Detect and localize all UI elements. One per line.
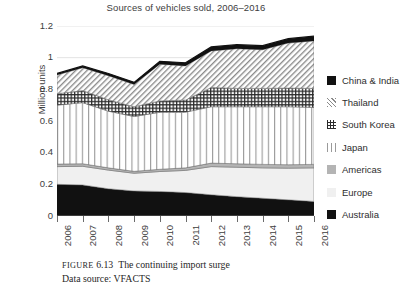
x-tick-mark	[108, 216, 109, 222]
legend-item-thailand[interactable]: Thailand	[327, 91, 419, 113]
light-gray-swatch	[327, 188, 336, 197]
solid-black-swatch	[327, 76, 336, 85]
gray-swatch	[327, 165, 336, 174]
x-tick-label: 2006	[62, 225, 73, 246]
x-tick-mark	[186, 216, 187, 222]
x-tick-mark	[211, 216, 212, 222]
x-tick-mark	[288, 216, 289, 222]
x-tick-label: 2010	[164, 225, 175, 246]
legend-label: Japan	[342, 142, 368, 153]
y-axis-ticks: 00.20.40.60.811.2	[0, 0, 53, 301]
legend-label: China & India	[342, 75, 399, 86]
x-tick-mark	[160, 216, 161, 222]
caption-title: The continuing import surge	[118, 259, 230, 270]
x-tick-label: 2015	[293, 225, 304, 246]
y-tick-label: 0.8	[40, 83, 53, 94]
x-tick-label: 2016	[319, 225, 330, 246]
legend-label: Australia	[342, 209, 379, 220]
x-tick-label: 2013	[241, 225, 252, 246]
area-band	[57, 103, 314, 172]
figure-caption: FIGURE 6.13 The continuing import surge …	[62, 258, 362, 285]
y-tick-label: 0	[48, 210, 53, 221]
x-tick-mark	[134, 216, 135, 222]
legend-item-americas[interactable]: Americas	[327, 159, 419, 181]
caption-source: Data source: VFACTS	[62, 272, 362, 285]
y-tick-label: 0.4	[40, 146, 53, 157]
x-tick-label: 2011	[190, 225, 201, 245]
caption-figure-label: FIGURE	[62, 261, 94, 270]
chart-legend: China & IndiaThailandSouth KoreaJapanAme…	[327, 69, 419, 226]
legend-item-australia[interactable]: Australia	[327, 203, 419, 225]
legend-label: Thailand	[342, 97, 378, 108]
legend-label: South Korea	[342, 119, 395, 130]
chart-title: Sources of vehicles sold, 2006–2016	[57, 2, 315, 13]
x-tick-label: 2007	[87, 225, 98, 246]
x-tick-mark	[237, 216, 238, 222]
checkerboard-swatch	[327, 120, 336, 129]
caption-figure-number: 6.13	[96, 259, 113, 270]
x-tick-label: 2012	[216, 225, 227, 246]
x-tick-mark	[83, 216, 84, 222]
x-tick-mark	[314, 216, 315, 222]
x-tick-label: 2014	[267, 225, 278, 246]
x-tick-mark	[263, 216, 264, 222]
y-tick-label: 1	[48, 51, 53, 62]
y-tick-label: 0.6	[40, 115, 53, 126]
x-tick-mark	[57, 216, 58, 222]
legend-item-china-india[interactable]: China & India	[327, 69, 419, 91]
x-tick-label: 2008	[113, 225, 124, 246]
figure-container: Sources of vehicles sold, 2006–2016 Mill…	[0, 0, 419, 301]
y-tick-label: 0.2	[40, 178, 53, 189]
diagonal-hatch-swatch	[327, 98, 336, 107]
legend-item-japan[interactable]: Japan	[327, 136, 419, 158]
legend-label: Americas	[342, 164, 382, 175]
legend-item-south-korea[interactable]: South Korea	[327, 114, 419, 136]
legend-label: Europe	[342, 187, 373, 198]
plot-area	[57, 26, 314, 216]
vertical-lines-swatch	[327, 143, 336, 152]
x-tick-label: 2009	[139, 225, 150, 246]
y-tick-label: 1.2	[40, 20, 53, 31]
solid-black-swatch	[327, 210, 336, 219]
stacked-area-chart	[57, 26, 314, 216]
legend-item-europe[interactable]: Europe	[327, 181, 419, 203]
